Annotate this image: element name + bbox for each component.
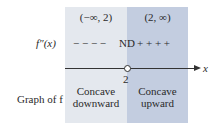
not-defined-label: ND	[119, 37, 135, 49]
interval-right-label: (2, ∞)	[127, 11, 188, 23]
sign-negative: − − − −	[73, 37, 106, 49]
concavity-right-line2: upward	[127, 97, 188, 109]
open-circle-icon	[124, 65, 131, 72]
concavity-left-line1: Concave	[65, 85, 127, 97]
graph-row-label: Graph of f	[17, 93, 63, 105]
graph-label-text: Graph of f	[17, 93, 63, 105]
concavity-right: Concave upward	[127, 85, 188, 109]
axis-label: x	[203, 62, 208, 74]
concavity-left: Concave downward	[65, 85, 127, 109]
critical-value-label: 2	[123, 73, 129, 85]
second-derivative-label: f″(x)	[36, 37, 56, 49]
concavity-left-line2: downward	[65, 97, 127, 109]
interval-left-label: (−∞, 2)	[65, 11, 127, 23]
sign-positive: + + + +	[137, 37, 170, 49]
axis-arrow-icon	[194, 65, 201, 71]
concavity-right-line1: Concave	[127, 85, 188, 97]
